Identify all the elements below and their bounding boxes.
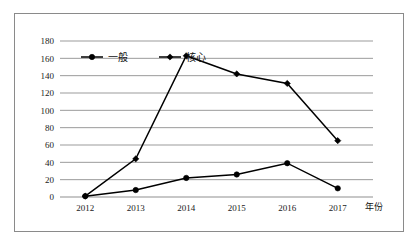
chart-frame: 020406080100120140160180 201220132014201… [14, 13, 404, 232]
y-axis-tick-labels: 020406080100120140160180 [41, 36, 55, 202]
y-axis-tick-label: 180 [41, 36, 55, 46]
gridlines-group [60, 41, 373, 197]
y-axis-tick-label: 20 [45, 175, 55, 185]
x-axis-tick-label: 2015 [228, 203, 247, 213]
x-axis-tick-labels: 201220132014201520162017 [76, 203, 347, 213]
data-point-marker [133, 187, 138, 192]
y-axis-tick-label: 40 [45, 158, 55, 168]
data-point-marker [184, 175, 189, 180]
legend-label: 一般 [108, 51, 128, 63]
x-axis-tick-label: 2017 [329, 203, 348, 213]
x-axis-tick-label: 2016 [278, 203, 297, 213]
series-line [85, 56, 338, 196]
series-lines-group [85, 56, 338, 196]
x-axis-tick-label: 2014 [177, 203, 196, 213]
y-axis-tick-label: 60 [45, 140, 55, 150]
chart-legend: 一般核心 [81, 51, 206, 63]
y-axis-tick-label: 80 [45, 123, 55, 133]
legend-marker-icon [167, 54, 173, 60]
x-axis-title: 年份 [365, 201, 383, 212]
data-point-marker [285, 161, 290, 166]
x-axis-tick-label: 2012 [76, 203, 94, 213]
y-axis-tick-label: 140 [41, 71, 55, 81]
data-point-marker [335, 186, 340, 191]
y-axis-tick-label: 100 [41, 106, 55, 116]
data-point-marker [234, 172, 239, 177]
y-axis-tick-label: 160 [41, 54, 55, 64]
legend-label: 核心 [186, 51, 206, 63]
y-axis-tick-label: 120 [41, 88, 55, 98]
legend-marker-icon [89, 54, 94, 59]
series-markers-group [82, 53, 341, 200]
line-chart: 020406080100120140160180 201220132014201… [15, 14, 403, 231]
x-axis-tick-label: 2013 [127, 203, 146, 213]
y-axis-tick-label: 0 [50, 192, 55, 202]
